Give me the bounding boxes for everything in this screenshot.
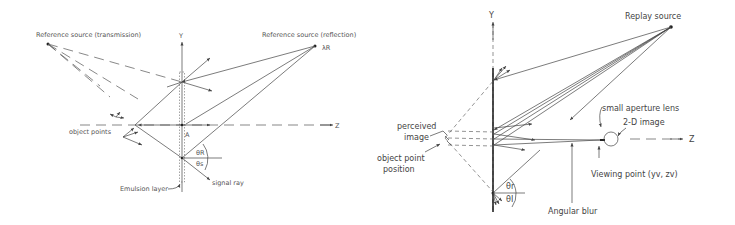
y-axis-label: Y bbox=[178, 32, 183, 40]
object-point-fans bbox=[110, 112, 142, 145]
lambda-label: λR bbox=[322, 44, 331, 52]
small-aperture-lens bbox=[604, 132, 618, 146]
emulsion-layer-label: Emulsion layer bbox=[120, 185, 168, 193]
signal-ray-label: signal ray bbox=[212, 179, 244, 187]
viewing-point-label: Viewing point (yv, zv) bbox=[591, 170, 678, 179]
angular-blur-label: Angular blur bbox=[548, 207, 598, 216]
ref-transmission-label: Reference source (transmission) bbox=[36, 31, 141, 39]
theta-s-label: θs bbox=[196, 160, 204, 168]
y-axis-label: Y bbox=[488, 11, 494, 20]
object-point-label-2: position bbox=[383, 165, 415, 174]
replay-source-label: Replay source bbox=[625, 12, 681, 21]
replay-figure: Y Replay source perce bbox=[377, 11, 695, 216]
object-points-label: object points bbox=[69, 128, 112, 136]
theta-r-label: θr bbox=[506, 182, 515, 191]
perceived-image-label-2: image bbox=[404, 133, 429, 142]
z-axis-label: Z bbox=[335, 122, 340, 130]
perceived-image-label-1: perceived bbox=[397, 122, 436, 131]
two-d-image-label: 2-D image bbox=[623, 118, 665, 127]
holography-diagram: Y Z Reference source (transmission) Refe… bbox=[0, 0, 735, 225]
theta-i-label: θI bbox=[506, 195, 513, 204]
z-axis-label: Z bbox=[689, 135, 695, 144]
ref-reflection-label: Reference source (reflection) bbox=[262, 31, 356, 39]
theta-r-label: θR bbox=[196, 149, 205, 157]
object-point-label-1: object point bbox=[377, 154, 425, 163]
small-aperture-lens-label: small aperture lens bbox=[602, 104, 679, 113]
point-a-label: A bbox=[185, 131, 190, 139]
recording-figure: Y Z Reference source (transmission) Refe… bbox=[36, 31, 356, 193]
angle-arc bbox=[203, 144, 208, 170]
